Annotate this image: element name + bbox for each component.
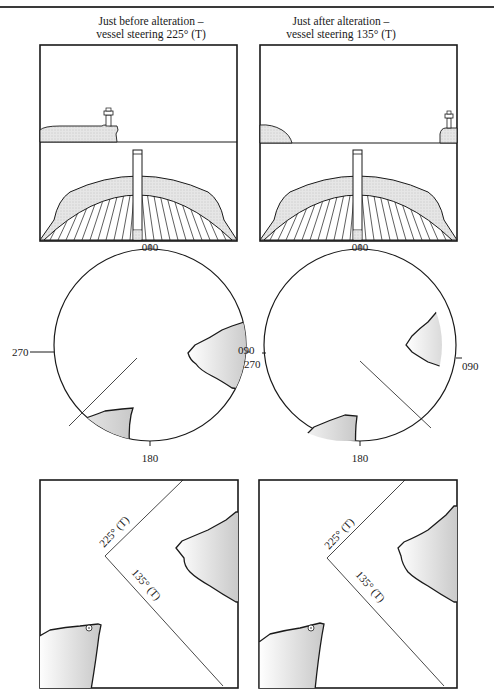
jackstaff [133, 150, 142, 240]
bearing-label-000: 000 [352, 241, 369, 253]
bearing-label-090: 090 [462, 360, 479, 372]
lighthouse-icon [447, 118, 451, 128]
lighthouse-icon [106, 115, 111, 126]
bearing-label-000: 000 [142, 241, 159, 253]
bearing-label-180: 180 [142, 452, 159, 464]
bearing-label-090: 090 [238, 344, 255, 356]
chart-plot-after: 225° (T) 135° (T) [259, 480, 460, 690]
bow-view-after [260, 45, 457, 241]
compass-before: 000 180 270 090 [12, 241, 255, 464]
bearing-label-270: 270 [12, 346, 29, 358]
jackstaff [353, 150, 362, 240]
bearing-label-180: 180 [352, 452, 369, 464]
diagram-canvas: 000 180 270 090 000 180 270 090 225° (T) [0, 0, 494, 690]
chart-plot-before: 225° (T) 135° (T) [38, 480, 240, 690]
bow-view-before [40, 45, 237, 241]
compass-after: 000 180 270 090 [244, 241, 479, 464]
bearing-label-270: 270 [244, 358, 261, 370]
headland-southwest [38, 624, 101, 690]
